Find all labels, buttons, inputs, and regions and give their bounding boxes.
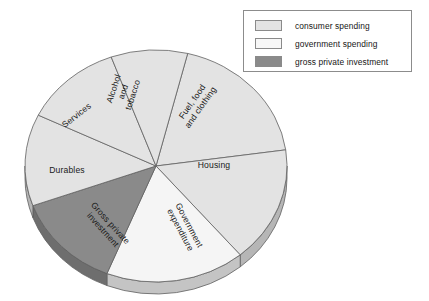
pie-slice-label: Housing xyxy=(198,160,231,170)
legend-swatch-government-spending xyxy=(255,38,282,49)
legend-item-consumer-spending: consumer spending xyxy=(255,17,411,34)
legend-label-consumer-spending: consumer spending xyxy=(295,21,370,31)
chart-legend: consumer spending government spending gr… xyxy=(243,10,412,72)
legend-swatch-gross-private-investment xyxy=(255,56,282,67)
pie-slice-label: Durables xyxy=(49,165,85,175)
legend-swatch-consumer-spending xyxy=(255,20,282,31)
legend-label-gross-private-investment: gross private investment xyxy=(295,57,388,67)
legend-item-gross-private-investment: gross private investment xyxy=(255,53,411,70)
pie-chart-figure: Fuel, foodand clothingHousingGovernmente… xyxy=(0,0,429,301)
legend-label-government-spending: government spending xyxy=(295,39,377,49)
legend-item-government-spending: government spending xyxy=(255,35,411,52)
